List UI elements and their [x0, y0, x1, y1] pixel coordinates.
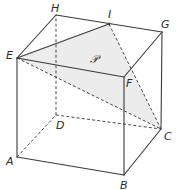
label-E: E — [6, 49, 13, 62]
cube-diagram: A B C D E F G H I 𝒫 — [0, 0, 177, 190]
vertex-labels: A B C D E F G H I — [5, 2, 172, 190]
label-D: D — [56, 119, 64, 132]
label-H: H — [51, 2, 59, 15]
point-i-marker — [108, 23, 111, 26]
label-I: I — [108, 8, 111, 21]
label-A: A — [5, 155, 14, 168]
label-B: B — [120, 179, 128, 190]
edge-CG — [161, 32, 162, 129]
edge-AD — [17, 115, 56, 157]
label-C: C — [164, 130, 172, 143]
label-F: F — [126, 77, 133, 90]
label-G: G — [161, 18, 170, 31]
edge-FG — [124, 32, 162, 77]
plane-p-section — [17, 24, 161, 129]
edge-BC — [124, 129, 161, 175]
edge-AB — [17, 157, 124, 175]
